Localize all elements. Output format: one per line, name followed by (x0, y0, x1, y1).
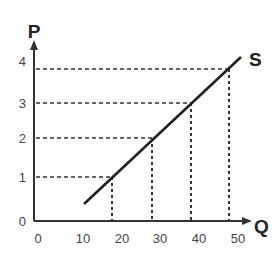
x-axis-label: Q (254, 216, 269, 237)
vertical-guides (112, 69, 229, 220)
horizontal-guides (36, 69, 229, 177)
x-tick-30: 30 (153, 231, 167, 246)
x-tick-40: 40 (192, 231, 206, 246)
x-tick-20: 20 (115, 231, 129, 246)
x-tick-0: 0 (34, 231, 41, 246)
x-tick-50: 50 (231, 231, 245, 246)
supply-chart: P Q S 0 1 2 3 4 0 10 20 30 40 50 (0, 0, 280, 261)
y-tick-3: 3 (19, 96, 26, 111)
y-tick-1: 1 (19, 170, 26, 185)
curve-label-s: S (249, 49, 262, 70)
x-axis-arrow-icon (242, 217, 252, 225)
x-tick-10: 10 (76, 231, 90, 246)
y-tick-2: 2 (19, 131, 26, 146)
y-axis-label: P (28, 21, 41, 42)
y-tick-0: 0 (19, 214, 26, 229)
supply-curve (84, 57, 241, 204)
y-tick-4: 4 (19, 54, 26, 69)
